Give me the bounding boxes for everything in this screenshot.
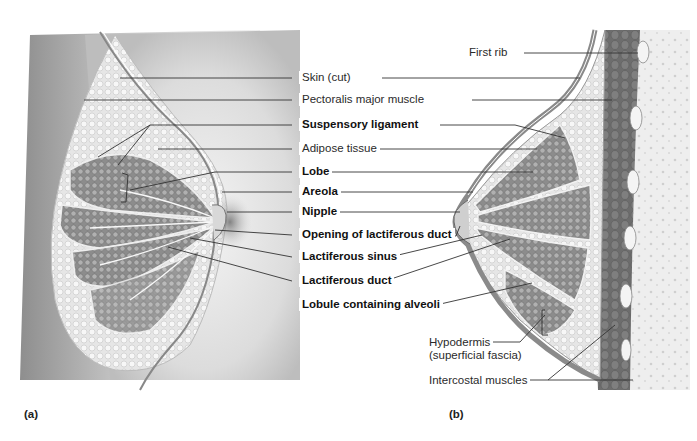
label-suspensory-ligament: Suspensory ligament [299, 118, 421, 131]
panel-a-illustration [20, 30, 300, 390]
label-first-rib: First rib [466, 46, 510, 59]
label-skin-cut: Skin (cut) [299, 71, 354, 84]
label-pectoralis-major: Pectoralis major muscle [299, 93, 427, 106]
label-areola: Areola [299, 185, 341, 198]
panel-label-b: (b) [449, 408, 464, 420]
label-superficial-fascia: (superficial fascia) [426, 349, 525, 362]
label-lactiferous-sinus: Lactiferous sinus [299, 250, 400, 263]
label-intercostal-muscles: Intercostal muscles [426, 374, 530, 387]
label-opening-lactiferous-duct: Opening of lactiferous duct [299, 228, 455, 241]
label-adipose-tissue: Adipose tissue [299, 142, 380, 155]
label-lobe: Lobe [299, 165, 332, 178]
breast-anatomy-illustration [0, 0, 697, 441]
panel-label-a: (a) [24, 408, 38, 420]
label-lactiferous-duct: Lactiferous duct [299, 274, 394, 287]
label-lobule-alveoli: Lobule containing alveoli [299, 298, 443, 311]
label-hypodermis: Hypodermis [426, 336, 493, 349]
label-nipple: Nipple [299, 205, 340, 218]
